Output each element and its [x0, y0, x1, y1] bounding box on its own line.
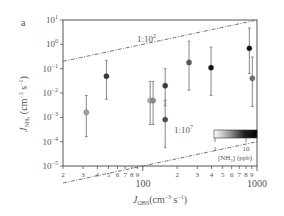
- colorbar: 1 10 [NH3] (ppb): [213, 130, 257, 163]
- reference-line: [63, 20, 257, 61]
- x-axis-title: JOBS(cm−3 s−1): [133, 194, 187, 206]
- x-minor-tick-label: 5: [221, 171, 225, 179]
- y-tick-label: 10−4: [43, 136, 58, 147]
- x-minor-tick-label: 3: [196, 171, 200, 179]
- x-tick-1000: 1000: [247, 178, 267, 189]
- data-point: [250, 57, 255, 106]
- x-minor-tick-label: 4: [96, 171, 100, 179]
- x-minor-tick-label: 7: [123, 171, 127, 179]
- data-point: [208, 47, 213, 95]
- x-minor-tick-label: 5: [107, 171, 111, 179]
- y-axis-title: JNH3 (cm−3 s−1): [18, 76, 31, 132]
- lower-line-label: 1:107: [174, 124, 193, 135]
- data-point: [186, 41, 191, 90]
- scatter-chart: a 10110010−110−210−310−410−5 23456789234…: [0, 0, 284, 216]
- y-tick-label: 10−5: [43, 160, 58, 171]
- x-minor-tick-label: 4: [210, 171, 214, 179]
- data-point: [247, 28, 252, 73]
- x-minor-tick-label: 6: [116, 171, 120, 179]
- colorbar-label: [NH3] (ppb): [218, 154, 253, 163]
- reference-line: [63, 142, 257, 183]
- x-minor-tick-label: 8: [130, 171, 134, 179]
- colorbar-tick-1: 1: [213, 145, 217, 153]
- y-tick-label: 10−2: [43, 87, 58, 98]
- x-minor-tick-label: 3: [81, 171, 85, 179]
- y-tick-label: 101: [46, 14, 58, 25]
- panel-label: a: [21, 17, 26, 28]
- x-minor-tick-label: 2: [61, 171, 65, 179]
- y-tick-label: 10−3: [43, 111, 58, 122]
- data-point: [104, 60, 109, 99]
- x-minor-tick-label: 2: [175, 171, 179, 179]
- data-point: [163, 100, 168, 147]
- y-axis-ticks: 10110010−110−210−310−410−5: [43, 14, 63, 171]
- x-minor-tick-label: 6: [230, 171, 234, 179]
- plot-frame: [63, 20, 257, 166]
- colorbar-tick-10: 10: [243, 145, 251, 153]
- data-point: [84, 95, 89, 136]
- upper-line-label: 1:102: [137, 33, 156, 44]
- y-tick-label: 10−1: [43, 63, 58, 74]
- x-minor-tick-label: 7: [238, 171, 242, 179]
- colorbar-gradient: [214, 130, 257, 138]
- x-tick-100: 100: [136, 178, 151, 189]
- x-axis-ticks: 2345678923456789: [61, 166, 257, 179]
- y-tick-label: 100: [46, 38, 58, 49]
